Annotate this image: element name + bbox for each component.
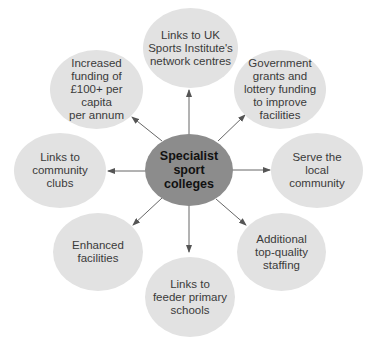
arrow-to-top-right [218, 115, 245, 141]
node-government-grants: Government grants and lottery funding to… [234, 50, 326, 129]
node-label: Increased funding of £100+ per capita pe… [54, 57, 139, 122]
node-label: Links to community clubs [32, 151, 88, 190]
node-feeder-primary-schools: Links to feeder primary schools [145, 257, 235, 337]
node-increased-funding: Increased funding of £100+ per capita pe… [50, 50, 143, 129]
arrow-to-bottom-right [216, 199, 246, 225]
node-label: Serve the local community [289, 151, 345, 190]
node-label: Additional top-quality staffing [255, 233, 308, 272]
node-label: Government grants and lottery funding to… [244, 57, 316, 122]
node-community-clubs: Links to community clubs [14, 133, 106, 208]
node-label: Links to UK Sports Institute's network c… [148, 29, 233, 68]
node-label: Links to feeder primary schools [153, 278, 227, 317]
node-enhanced-facilities: Enhanced facilities [53, 213, 143, 291]
node-uk-sports-institute: Links to UK Sports Institute's network c… [143, 8, 238, 88]
arrow-to-bottom-left [133, 198, 162, 225]
center-node-specialist-sport-colleges: Specialist sport colleges [145, 134, 233, 206]
center-label: Specialist sport colleges [160, 149, 218, 191]
node-additional-staffing: Additional top-quality staffing [237, 213, 326, 291]
node-serve-community: Serve the local community [271, 133, 363, 208]
spider-diagram: Links to UK Sports Institute's network c… [0, 0, 383, 342]
node-label: Enhanced facilities [72, 239, 124, 265]
